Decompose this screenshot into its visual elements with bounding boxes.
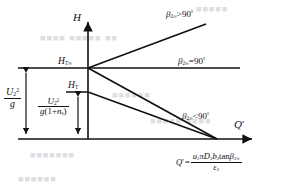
h-t-infinity-subscript: T∞ [65, 60, 72, 66]
figure-canvas: ■■■■■ ■■■■ ■■■■■ ■■ ■■■■■■ ■■■■■ ■■■■ ■■… [0, 0, 288, 190]
curve-label-beta-gt-90: β2∞>90° [166, 10, 193, 19]
y-axis-label: H [73, 12, 81, 23]
u-exponent: 2 [57, 97, 60, 103]
formula-denominator: ε2 [191, 163, 242, 173]
degree-sign: ° [203, 57, 205, 63]
relation-gt: >90 [177, 9, 191, 19]
x-axis-label: Q′ [234, 119, 244, 130]
epsilon-subscript: 2 [217, 167, 219, 172]
curve-label-beta-eq-90: β2∞=90° [178, 57, 205, 66]
h-t-infinity-label: HT∞ [58, 57, 72, 67]
paren-close: ) [64, 106, 67, 116]
tan-operator: tan [219, 151, 229, 161]
relation-lt: <90 [193, 111, 207, 121]
prime-glyph: ′ [182, 157, 184, 167]
fraction-u2-squared-over-g-one-plus-ns: U22 g(1+ns) [38, 97, 69, 117]
formula-lhs: Q′ [176, 158, 184, 167]
h-t-subscript: T [75, 84, 78, 90]
paren-open: (1+ [45, 106, 58, 116]
curve-label-beta-lt-90: β2∞<90° [182, 112, 209, 121]
degree-sign: ° [191, 10, 193, 16]
curve-beta-lt-90 [88, 68, 217, 139]
flow-rate-formula: Q′ = u2πD2b2tanβ2∞ ε2 [176, 152, 242, 173]
degree-sign: ° [207, 112, 209, 118]
beta-subscript: 2∞ [234, 156, 240, 161]
fraction-u2-squared-over-g: U22 g [4, 87, 21, 109]
prime-glyph: ′ [242, 118, 244, 130]
denominator-g: g [4, 99, 21, 109]
relation-eq: =90 [189, 56, 203, 66]
equals-sign: = [185, 158, 190, 167]
u-exponent: 2 [16, 87, 19, 93]
characteristic-curve-plot [0, 0, 288, 190]
h-t-label: HT [68, 81, 78, 91]
